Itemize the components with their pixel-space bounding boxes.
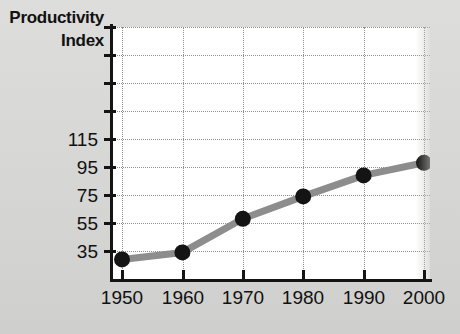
data-point-1990 xyxy=(356,167,372,183)
data-point-2000 xyxy=(416,155,430,171)
data-point-1950 xyxy=(114,251,130,267)
y-tick-label-75: 75 xyxy=(28,186,98,205)
x-tick-1950 xyxy=(121,270,124,282)
x-tick-label-1950: 1950 xyxy=(87,288,157,308)
x-tick-1960 xyxy=(182,270,185,282)
y-axis-title-line-2: Index xyxy=(0,29,104,52)
y-axis-title: Productivity Index xyxy=(0,6,104,52)
x-tick-label-1980: 1980 xyxy=(268,288,338,308)
y-tick-95 xyxy=(104,166,116,169)
y-tick-55 xyxy=(104,222,116,225)
x-tick-1990 xyxy=(363,270,366,282)
y-tick-155 xyxy=(104,82,116,85)
y-tick-135 xyxy=(104,110,116,113)
x-tick-1980 xyxy=(302,270,305,282)
data-series-productivity-index xyxy=(112,27,430,279)
data-point-1960 xyxy=(174,244,190,260)
y-tick-75 xyxy=(104,194,116,197)
plot-area xyxy=(112,27,430,279)
y-tick-195 xyxy=(104,26,116,29)
y-tick-label-95: 95 xyxy=(28,158,98,177)
productivity-index-line-chart: Productivity Index xyxy=(0,0,460,334)
y-tick-115 xyxy=(104,138,116,141)
y-tick-175 xyxy=(104,54,116,57)
data-point-1980 xyxy=(295,188,311,204)
x-axis-line xyxy=(110,279,432,282)
y-tick-label-115: 115 xyxy=(28,130,98,149)
series-line xyxy=(122,163,424,260)
data-point-1970 xyxy=(235,211,251,227)
y-axis-line xyxy=(110,24,113,282)
y-tick-label-55: 55 xyxy=(28,214,98,233)
y-tick-35 xyxy=(104,250,116,253)
y-tick-label-35: 35 xyxy=(28,242,98,261)
x-tick-label-2000: 2000 xyxy=(389,288,459,308)
y-axis-title-line-1: Productivity xyxy=(0,6,104,29)
x-tick-2000 xyxy=(423,270,426,282)
x-tick-1970 xyxy=(242,270,245,282)
